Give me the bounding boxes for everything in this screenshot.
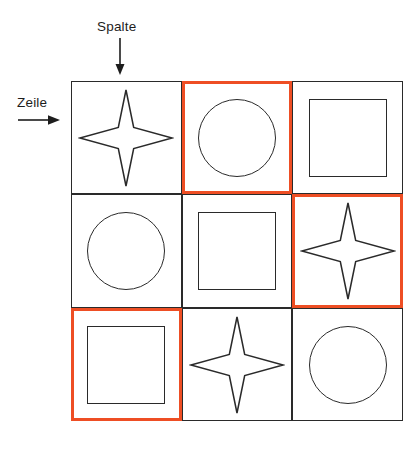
grid-cell-r3c2[interactable] xyxy=(182,308,293,421)
circle-shape xyxy=(198,99,276,177)
shape-container xyxy=(293,82,402,193)
grid-cell-r1c1[interactable] xyxy=(71,81,182,194)
shape-container xyxy=(74,311,179,418)
grid-cell-r3c3[interactable] xyxy=(292,308,403,421)
circle-shape xyxy=(87,212,165,290)
square-shape xyxy=(309,99,387,177)
grid-cell-r1c2[interactable] xyxy=(182,81,293,194)
row-annotation-label: Zeile xyxy=(17,95,47,110)
grid-cell-r3c1[interactable] xyxy=(71,308,182,421)
shape-container xyxy=(183,195,292,307)
square-shape xyxy=(87,326,165,404)
shape-container xyxy=(293,309,402,420)
square-shape xyxy=(198,212,276,290)
star-shape xyxy=(78,88,174,188)
circle-shape xyxy=(309,326,387,404)
shape-container xyxy=(295,197,400,305)
shape-grid xyxy=(71,81,403,421)
star-shape xyxy=(300,201,396,301)
column-annotation-label: Spalte xyxy=(97,19,136,34)
grid-cell-r1c3[interactable] xyxy=(292,81,403,194)
shape-container xyxy=(72,195,181,307)
figure-canvas: Spalte Zeile xyxy=(0,0,417,455)
shape-container xyxy=(185,84,290,191)
grid-cell-r2c1[interactable] xyxy=(71,194,182,308)
grid-cell-r2c2[interactable] xyxy=(182,194,293,308)
shape-container xyxy=(183,309,292,420)
shape-container xyxy=(72,82,181,193)
star-shape xyxy=(189,315,285,415)
arrow-down-icon xyxy=(107,36,133,76)
arrow-right-icon xyxy=(16,110,62,130)
grid-cell-r2c3[interactable] xyxy=(292,194,403,308)
